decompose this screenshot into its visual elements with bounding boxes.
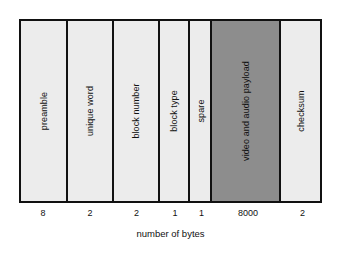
packet-field-byte-count: 1 — [160, 205, 190, 221]
packet-field-label: spare — [195, 99, 205, 122]
packet-field-byte-count: 1 — [190, 205, 213, 221]
byte-count-row: 8221180002 — [19, 205, 322, 221]
packet-field-5: video and audio payload — [212, 21, 281, 201]
packet-field-label: block type — [169, 90, 179, 132]
packet-field-label: preamble — [39, 92, 49, 130]
packet-structure-figure: preambleunique wordblock numberblock typ… — [0, 0, 341, 255]
packet-field-byte-count: 2 — [283, 205, 322, 221]
packet-field-4: spare — [190, 21, 213, 201]
axis-caption: number of bytes — [19, 228, 322, 239]
packet-field-byte-count: 8 — [19, 205, 67, 221]
packet-field-label: checksum — [296, 90, 306, 131]
packet-field-1: unique word — [68, 21, 113, 201]
packet-field-byte-count: 2 — [67, 205, 113, 221]
packet-field-byte-count: 8000 — [213, 205, 283, 221]
packet-field-6: checksum — [281, 21, 319, 201]
packet-field-2: block number — [114, 21, 160, 201]
packet-diagram: preambleunique wordblock numberblock typ… — [19, 19, 322, 203]
packet-field-3: block type — [160, 21, 190, 201]
packet-field-label: block number — [131, 83, 141, 138]
packet-field-0: preamble — [21, 21, 68, 201]
packet-field-label: video and audio payload — [241, 61, 251, 161]
packet-field-label: unique word — [85, 86, 95, 136]
packet-field-byte-count: 2 — [113, 205, 160, 221]
